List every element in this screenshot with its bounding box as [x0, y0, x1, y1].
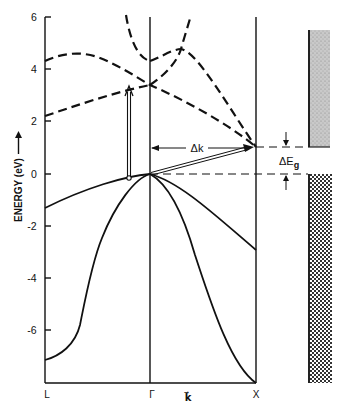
eg-arrow-bottom-head-icon — [283, 175, 289, 181]
conduction-band-U-right-hump — [150, 49, 256, 147]
delta-k-arrow-left-icon — [151, 145, 159, 151]
direct-transition-arrow — [125, 86, 133, 180]
valence-band-heavy-left — [45, 174, 150, 360]
band-blocks-panel — [308, 30, 332, 383]
conduction-band-U-left — [126, 15, 150, 61]
x-tick-label-L: L — [44, 389, 50, 400]
y-tick-label: 2 — [31, 115, 37, 127]
x-tick-labels: L Γ X k⃗ — [44, 389, 259, 403]
axes — [45, 17, 256, 383]
conduction-band-L-lower — [45, 85, 150, 116]
valence-band-light-right — [150, 174, 256, 250]
y-axis-title-text: ENERGY (eV) — [13, 158, 24, 222]
y-tick-labels: 6 4 2 0 -2 -4 -6 — [27, 11, 37, 336]
valence-band-block — [308, 174, 332, 383]
hole-marker-icon — [127, 176, 131, 180]
delta-eg-annotation: ΔEg — [279, 132, 299, 190]
y-tick-label: 6 — [31, 11, 37, 23]
band-structure-diagram: 6 4 2 0 -2 -4 -6 ENERGY (eV) L Γ X k⃗ — [0, 0, 344, 407]
y-axis-arrowhead-icon — [15, 131, 22, 138]
y-tick-label: 0 — [31, 168, 37, 180]
delta-k-label: Δk — [191, 142, 204, 154]
valence-band-light-left — [45, 174, 150, 208]
y-tick-label: -2 — [27, 220, 36, 232]
conduction-band-block — [308, 30, 330, 147]
x-tick-label-gamma: Γ — [149, 389, 155, 400]
y-tick-label: -6 — [27, 324, 36, 336]
eg-arrow-top-head-icon — [283, 140, 289, 146]
k-vector-label: k⃗ — [184, 391, 192, 403]
conduction-band-rising-from-gamma — [150, 15, 191, 85]
y-tick-label: -4 — [27, 272, 36, 284]
delta-k-annotation: Δk — [151, 142, 246, 154]
delta-eg-main: ΔE — [279, 155, 294, 167]
delta-eg-subscript: g — [294, 160, 300, 170]
x-tick-label-X: X — [253, 389, 260, 400]
y-tick-label: 4 — [31, 63, 37, 75]
delta-eg-label: ΔEg — [279, 155, 299, 170]
y-axis-title: ENERGY (eV) — [13, 131, 24, 222]
